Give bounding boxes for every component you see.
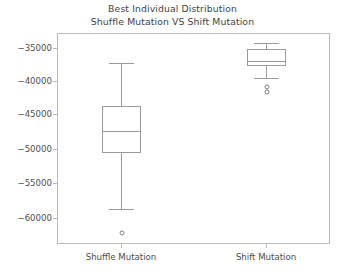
box-iqr xyxy=(247,49,286,66)
chart-title-line-2: Shuffle Mutation VS Shift Mutation xyxy=(0,16,345,29)
x-tick-mark xyxy=(266,244,267,248)
y-tick-label: −40000 xyxy=(0,76,52,86)
y-tick-label: −60000 xyxy=(0,213,52,223)
chart-title-line-1: Best Individual Distribution xyxy=(0,3,345,16)
outlier-marker xyxy=(265,90,270,95)
y-tick-label: −35000 xyxy=(0,43,52,53)
outlier-marker xyxy=(120,231,125,236)
median-line xyxy=(102,131,141,132)
y-tick-label: −50000 xyxy=(0,144,52,154)
upper-whisker-cap xyxy=(254,43,279,44)
upper-whisker-line xyxy=(121,63,122,106)
y-tick-label: −45000 xyxy=(0,109,52,119)
lower-whisker-cap xyxy=(109,209,134,210)
lower-whisker-cap xyxy=(254,78,279,79)
median-line xyxy=(247,61,286,62)
x-tick-label-shuffle-mutation: Shuffle Mutation xyxy=(86,252,157,262)
y-tick-label: −55000 xyxy=(0,178,52,188)
x-tick-mark xyxy=(121,244,122,248)
lower-whisker-line xyxy=(266,66,267,78)
plot-area xyxy=(57,33,330,244)
x-tick-label-shift-mutation: Shift Mutation xyxy=(236,252,296,262)
box-iqr xyxy=(102,106,141,153)
lower-whisker-line xyxy=(121,153,122,209)
chart-title: Best Individual Distribution Shuffle Mut… xyxy=(0,3,345,28)
chart-figure: Best Individual Distribution Shuffle Mut… xyxy=(0,0,345,271)
upper-whisker-cap xyxy=(109,63,134,64)
